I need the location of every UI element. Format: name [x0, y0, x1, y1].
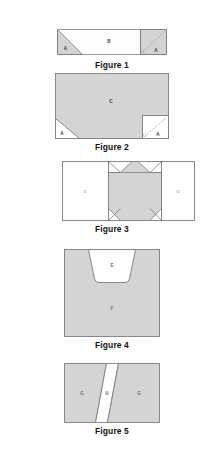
figure-5-label-g-right: G: [137, 391, 141, 396]
figure-3-block: D D Figure 3: [0, 160, 224, 234]
figure-3-label-d-right: D: [176, 189, 179, 194]
figure-5-label-g-left: G: [80, 391, 84, 396]
figure-2-caption: Figure 2: [95, 142, 129, 152]
figure-1-diagram: A B A: [52, 28, 172, 58]
figure-2-block: C A A Figure 2: [0, 72, 224, 152]
figure-sheet: A B A Figure 1 C A A Figure 2: [0, 0, 224, 461]
figure-4-caption: Figure 4: [95, 340, 129, 350]
figure-3-label-d-left: D: [83, 189, 86, 194]
figure-1-caption: Figure 1: [95, 60, 129, 70]
figure-3-diagram: D D: [28, 160, 196, 222]
figure-3-caption: Figure 3: [95, 224, 129, 234]
figure-5-diagram: G H G: [47, 362, 177, 424]
figure-1-block: A B A Figure 1: [0, 28, 224, 70]
figure-5-block: G H G Figure 5: [0, 362, 224, 436]
figure-4-label-f: F: [111, 306, 114, 311]
figure-2-diagram: C A A: [47, 72, 177, 140]
figure-4-block: E F Figure 4: [0, 248, 224, 350]
figure-5-caption: Figure 5: [95, 426, 129, 436]
figure-4-diagram: E F: [47, 248, 177, 338]
figure-4-label-e: E: [110, 263, 113, 268]
